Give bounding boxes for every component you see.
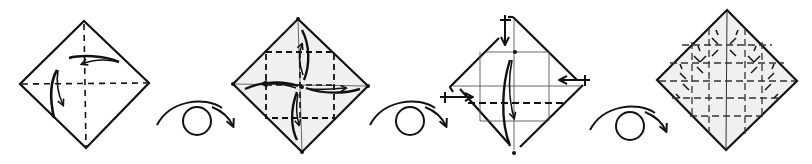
paper-edge bbox=[513, 17, 577, 80]
reference-dot bbox=[513, 50, 517, 54]
step-2-diagram bbox=[231, 17, 370, 154]
reference-dot bbox=[512, 151, 516, 155]
reference-dot bbox=[300, 85, 304, 89]
reference-dot bbox=[296, 17, 300, 21]
turn-over-icon bbox=[157, 101, 233, 135]
step-1-diagram bbox=[20, 21, 149, 148]
step-4-diagram bbox=[657, 10, 797, 150]
reference-dot bbox=[231, 82, 235, 86]
step-3-diagram bbox=[440, 15, 590, 155]
turn-over-icon bbox=[590, 106, 666, 140]
origami-diagram bbox=[0, 0, 812, 164]
reference-dot bbox=[300, 150, 304, 154]
reference-dot bbox=[366, 84, 370, 88]
turn-over-icon bbox=[370, 101, 446, 135]
